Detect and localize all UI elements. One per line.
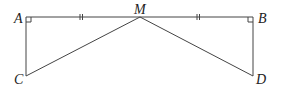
label-m: M — [133, 2, 147, 17]
segment-md — [140, 17, 253, 76]
geometry-diagram: A M B C D — [0, 0, 281, 95]
segment-mc — [26, 17, 140, 76]
label-c: C — [14, 72, 24, 87]
label-a: A — [13, 11, 23, 26]
right-angle-mark-a — [26, 17, 31, 22]
label-d: D — [255, 72, 266, 87]
right-angle-mark-b — [248, 17, 253, 22]
label-b: B — [258, 11, 267, 26]
